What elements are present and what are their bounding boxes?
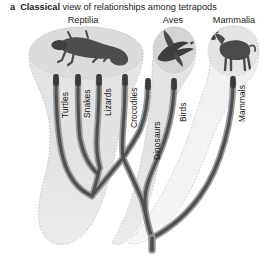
figure-panel: aClassical view of relationships among t… [0, 0, 275, 262]
phylogenetic-tree-graphic [0, 0, 275, 262]
tip-label-birds: Birds [178, 102, 188, 122]
tip-label-snakes: Snakes [82, 89, 92, 118]
reptilia-icon-bubble [29, 27, 143, 79]
tip-label-lizards: Lizards [103, 88, 113, 116]
tip-label-mammals: Mammals [237, 85, 247, 122]
mammalia-icon-bubble [208, 26, 258, 76]
tip-label-crocodiles: Crocodiles [129, 87, 139, 128]
tip-label-dinosaurs: Dinosaurs [152, 121, 162, 160]
tip-label-turtles: Turtles [60, 92, 70, 118]
